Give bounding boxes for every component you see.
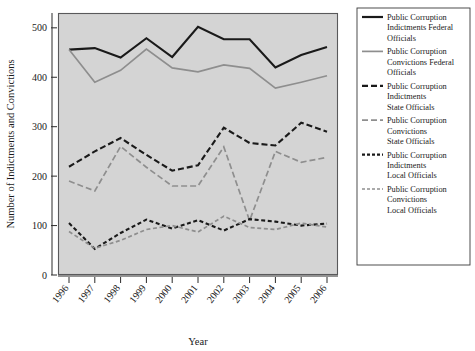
legend-item-label: Officials: [387, 68, 416, 77]
public-corruption-line-chart: 0100200300400500 19961997199819992000200…: [0, 0, 475, 351]
legend-item-label: Officials: [387, 34, 416, 43]
y-axis-tick-label: 400: [32, 72, 47, 83]
x-axis-title: Year: [188, 336, 208, 347]
legend-item-label: Indictments Federal: [387, 23, 454, 32]
legend-item-label: State Officials: [387, 103, 435, 112]
legend-item-label: Public Corruption: [387, 47, 448, 56]
legend-item-label: Indictments: [387, 161, 426, 170]
legend-item-label: Local Officials: [387, 206, 437, 215]
plot-area-background: [58, 13, 338, 275]
y-axis-tick-label: 100: [32, 220, 47, 231]
legend-item-label: Local Officials: [387, 171, 437, 180]
legend-item-label: Convictions Federal: [387, 58, 455, 67]
legend-item-label: Convictions: [387, 195, 427, 204]
legend-item-label: Public Corruption: [387, 82, 448, 91]
legend-item-label: Public Corruption: [387, 116, 448, 125]
y-axis-tick-label: 500: [32, 22, 47, 33]
legend-item-label: Indictments: [387, 92, 426, 101]
legend-item-label: Convictions: [387, 127, 427, 136]
y-axis-title: Number of Indictments and Convictions: [5, 59, 16, 228]
y-axis-tick-label: 0: [42, 270, 47, 281]
legend: Public CorruptionIndictments FederalOffi…: [357, 8, 470, 265]
y-axis-tick-label: 300: [32, 121, 47, 132]
legend-item-label: Public Corruption: [387, 151, 448, 160]
legend-item-label: State Officials: [387, 137, 435, 146]
legend-item-label: Public Corruption: [387, 185, 448, 194]
legend-item-label: Public Corruption: [387, 13, 448, 22]
chart-figure: 0100200300400500 19961997199819992000200…: [0, 0, 475, 351]
y-axis-tick-label: 200: [32, 171, 47, 182]
